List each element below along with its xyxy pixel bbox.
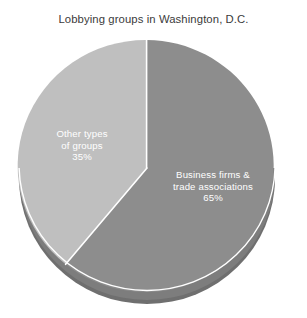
pie-top-face: [18, 40, 274, 292]
pie-chart-canvas: [0, 0, 307, 318]
pie-chart-figure: Lobbying groups in Washington, D.C. O: [0, 0, 307, 318]
